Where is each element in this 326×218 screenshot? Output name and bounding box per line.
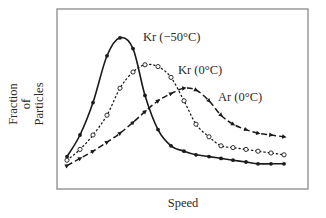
series-label-kr-0: Kr (0°C) (178, 63, 222, 77)
data-point-marker (143, 63, 147, 67)
data-point-marker (105, 113, 109, 117)
data-point-marker (105, 54, 109, 58)
data-point-marker (282, 134, 287, 139)
data-point-marker (256, 162, 260, 166)
data-point-marker (231, 158, 235, 162)
data-point-marker (65, 158, 69, 162)
data-point-marker (244, 147, 248, 151)
data-point-marker (269, 151, 273, 155)
data-point-marker (90, 148, 96, 154)
series-label-ar-0: Ar (0°C) (218, 90, 262, 104)
data-point-marker (168, 90, 174, 96)
data-point-marker (182, 86, 187, 91)
series-labels: Kr (−50°C) Kr (0°C) Ar (0°C) (143, 30, 262, 104)
data-point-marker (169, 75, 173, 79)
data-point-marker (269, 133, 274, 138)
data-point-marker (182, 149, 186, 153)
data-point-marker (182, 99, 186, 103)
data-point-marker (169, 144, 173, 148)
data-point-marker (219, 157, 223, 161)
data-point-marker (207, 155, 211, 159)
data-point-marker (156, 65, 160, 69)
data-point-marker (244, 160, 248, 164)
data-point-marker (207, 135, 211, 139)
data-point-marker (282, 153, 286, 157)
data-point-marker (91, 133, 95, 137)
data-point-marker (131, 47, 135, 51)
data-point-marker (118, 86, 122, 90)
data-point-marker (219, 144, 223, 148)
data-point-marker (143, 94, 147, 98)
data-point-marker (256, 131, 261, 136)
data-point-marker (256, 149, 260, 153)
y-axis-label: Fraction of Particles (6, 82, 46, 125)
data-point-marker (118, 36, 122, 40)
data-point-marker (231, 146, 235, 150)
y-axis-label-line2: of (19, 98, 33, 109)
x-axis-label: Speed (168, 196, 199, 210)
series-label-kr-minus50: Kr (−50°C) (143, 30, 201, 44)
y-axis-label-line3: Particles (32, 82, 46, 125)
data-point-marker (282, 162, 286, 166)
data-point-marker (194, 153, 198, 157)
data-point-marker (91, 101, 95, 105)
data-point-marker (64, 162, 70, 168)
y-axis-label-line1: Fraction (6, 82, 20, 124)
data-point-marker (131, 70, 135, 74)
data-point-marker (77, 155, 83, 161)
data-point-marker (269, 162, 273, 166)
data-point-marker (78, 147, 82, 151)
data-point-marker (156, 128, 160, 132)
data-point-marker (78, 133, 82, 137)
chart: Kr (−50°C) Kr (0°C) Ar (0°C) Fraction of… (0, 0, 326, 218)
data-point-marker (194, 122, 198, 126)
